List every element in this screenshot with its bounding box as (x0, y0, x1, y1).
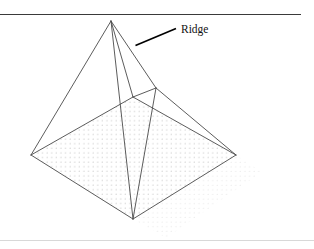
ridge-diagram-svg: Ridge (0, 0, 314, 249)
hip-ridge-to-back (133, 88, 156, 97)
figure-root: Ridge (0, 0, 314, 249)
hip-apex-to-back (111, 21, 133, 97)
ridge-leader-line (136, 29, 177, 46)
ridge-label: Ridge (181, 23, 208, 36)
